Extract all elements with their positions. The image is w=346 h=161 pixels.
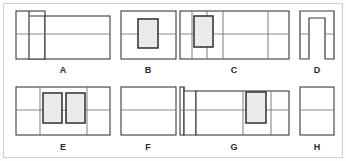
figure-d: D [300,11,334,75]
figure-g-label: G [230,142,237,152]
figure-h-label: H [314,142,321,152]
figure-e-inner-rect-left [43,93,62,123]
figure-g-notch [184,87,196,135]
figure-e: E [16,87,110,152]
figure-a-notch [29,11,45,59]
figure-f-label: F [145,142,151,152]
figure-g-inner-rect [246,92,266,123]
figure-b-label: B [145,65,152,75]
figure-g: G [180,87,289,152]
figure-a: A [16,11,110,75]
figure-h: H [300,87,334,152]
figure-d-label: D [314,65,321,75]
figure-g-main-body [196,91,289,135]
figure-h-outline [300,87,334,135]
figure-b-inner-rect [138,19,158,48]
figure-e-outline [16,87,110,135]
figure-e-label: E [60,142,66,152]
figure-a-label: A [60,65,67,75]
figure-f: F [121,87,176,152]
figure-b: B [121,11,176,75]
figure-c-inner-rect [194,16,213,47]
figure-c-label: C [231,65,238,75]
figure-c: C [180,11,289,75]
figure-sheet: A B C D [0,0,346,161]
figure-f-outline [121,87,176,135]
figure-diagram-svg: A B C D [0,0,346,161]
figure-d-arch [300,11,334,59]
figure-e-inner-rect-right [66,93,85,123]
figure-a-right-block [45,16,110,59]
